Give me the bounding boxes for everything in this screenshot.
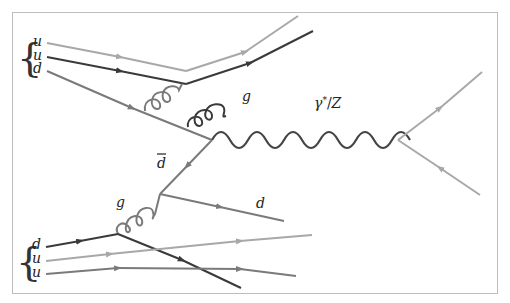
quark-outgoing-d bbox=[160, 194, 284, 221]
antiquark-propagator bbox=[160, 140, 212, 194]
proton-top-labels: { u u d bbox=[17, 33, 42, 80]
feynman-diagram: g γ*/Z d d g bbox=[0, 0, 510, 303]
label-gluon-bottom: g bbox=[116, 194, 125, 210]
quark-line-bottom-u2 bbox=[46, 268, 296, 276]
antilepton-outgoing bbox=[398, 140, 480, 195]
quark-line-bottom-d bbox=[46, 234, 241, 288]
label-top-d: d bbox=[33, 60, 42, 76]
boson-propagator bbox=[212, 132, 410, 148]
label-antiquark: d bbox=[157, 155, 166, 171]
label-boson: γ*/Z bbox=[314, 95, 342, 111]
gluon-top-exchange bbox=[145, 84, 182, 111]
proton-bottom-labels: { d u u bbox=[16, 236, 41, 284]
quark-line-top-u1 bbox=[47, 16, 298, 71]
label-gluon-top: g bbox=[242, 88, 251, 104]
label-bottom-u2: u bbox=[32, 264, 41, 280]
gluon-radiated bbox=[188, 104, 226, 127]
quark-line-top-u2 bbox=[47, 31, 313, 84]
quark-line-top-d bbox=[47, 71, 212, 140]
lepton-outgoing bbox=[398, 72, 482, 140]
label-outgoing-quark: d bbox=[256, 195, 265, 211]
